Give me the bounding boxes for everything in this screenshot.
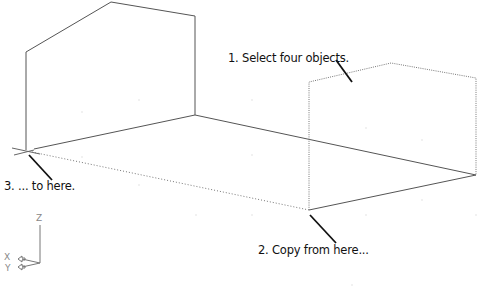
ucs-x-label: X <box>4 252 10 262</box>
callout-to-here: 3. ... to here. <box>4 179 75 193</box>
ucs-z-label: Z <box>36 213 42 223</box>
original-wall[interactable] <box>26 2 476 210</box>
selected-objects[interactable] <box>309 63 476 210</box>
callout-copy-from: 2. Copy from here... <box>258 243 369 257</box>
grid-dots <box>81 99 476 285</box>
leader-lines <box>29 60 352 243</box>
ucs-icon <box>18 225 40 270</box>
ucs-y-label: Y <box>5 263 11 273</box>
callout-select-objects: 1. Select four objects. <box>228 51 349 65</box>
drawing-canvas[interactable] <box>0 0 487 290</box>
